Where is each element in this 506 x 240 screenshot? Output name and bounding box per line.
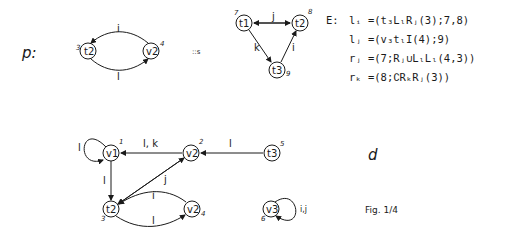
node-num: 8 — [308, 8, 313, 16]
edge-label: j — [163, 174, 167, 185]
node-t3-d: t3 — [267, 148, 277, 159]
d-label: d — [368, 146, 378, 164]
node-num: 9 — [286, 70, 291, 78]
edge-label: l — [152, 215, 155, 226]
equation-line: lᵢ =(t₃LₗRⱼ(3);7,8) — [349, 11, 469, 30]
node-t2-d: t2 — [106, 204, 116, 215]
edge-label: l — [229, 138, 232, 149]
node-num: 2 — [199, 138, 204, 146]
p-label: p: — [21, 44, 37, 62]
node-num: 3 — [76, 44, 80, 52]
node-t3-s: t3 — [272, 65, 282, 76]
node-num: 4 — [160, 40, 164, 48]
node-v3-d: v3 — [266, 204, 278, 215]
node-v2-p: v2 — [146, 46, 158, 57]
edge-label: l — [78, 142, 81, 153]
node-num: 1 — [119, 138, 123, 146]
node-num: 6 — [261, 215, 266, 223]
node-t1-s: t1 — [239, 18, 249, 29]
equation-line: rⱼ =(7;Rⱼ∪LₗLₗ(4,3)) — [349, 49, 475, 68]
equations-prefix: E: — [326, 11, 339, 30]
edge-label: i — [292, 42, 295, 53]
node-num: 3 — [101, 215, 105, 223]
edge-label: i — [152, 190, 155, 201]
equation-line: lⱼ =(v₃tₗI(4);9) — [349, 30, 450, 49]
node-v2b-d: v2 — [187, 204, 199, 215]
figure-caption: Fig. 1/4 — [365, 205, 398, 215]
edge-label: k — [254, 42, 260, 53]
node-num: 5 — [280, 140, 285, 148]
edge-label: l — [103, 175, 106, 186]
sep-label: ::s — [192, 48, 201, 56]
node-num: 4 — [201, 210, 205, 218]
node-v2-d: v2 — [186, 148, 198, 159]
edge-label: l — [117, 71, 120, 82]
edge-label: i,j — [300, 205, 307, 214]
edge-label: l, k — [143, 138, 158, 149]
node-t2-s: t2 — [295, 18, 305, 29]
edge-label: i — [117, 23, 120, 34]
edge-label: j — [271, 11, 275, 22]
node-v1-d: v1 — [106, 148, 118, 159]
node-num: 7 — [234, 9, 239, 17]
equation-line: rₖ =(8;∁RₖRⱼ(3)) — [349, 68, 450, 87]
node-t2-p: t2 — [84, 46, 94, 57]
